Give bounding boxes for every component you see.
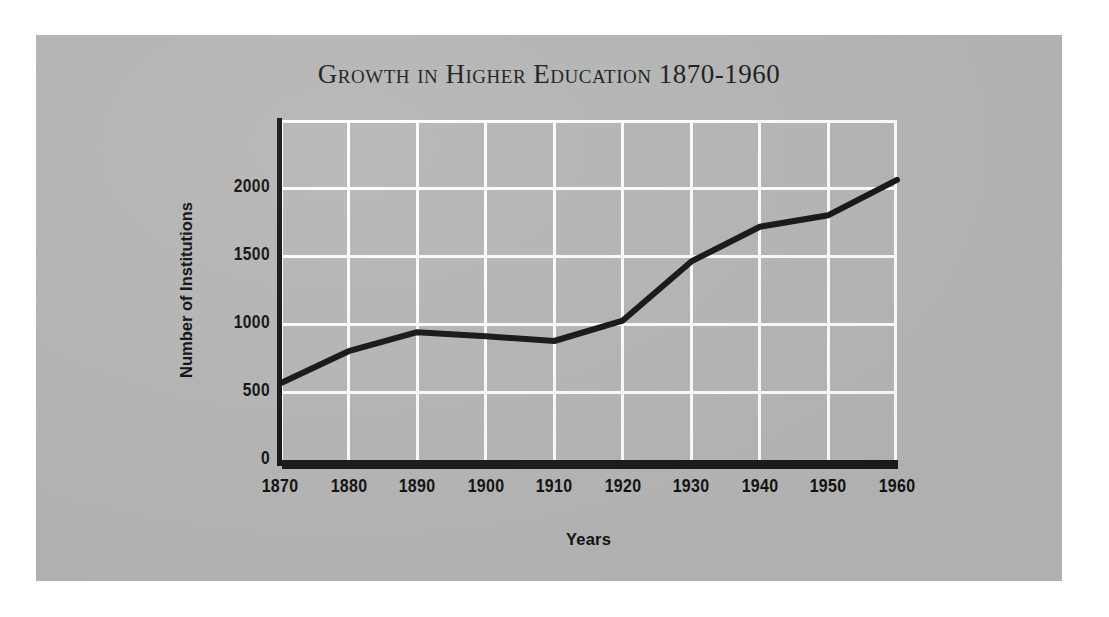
y-axis-title-text: Number of Institutions bbox=[177, 202, 196, 378]
chart-title: Growth in Higher Education 1870-1960 bbox=[36, 59, 1062, 90]
y-tick-label: 1000 bbox=[213, 311, 270, 333]
x-tick-label: 1900 bbox=[452, 475, 519, 497]
x-tick-label: 1940 bbox=[726, 475, 793, 497]
y-axis-line bbox=[277, 118, 282, 466]
chart-panel: Growth in Higher Education 1870-1960 050… bbox=[36, 35, 1062, 581]
y-tick-label: 0 bbox=[213, 447, 270, 469]
x-axis-title: Years bbox=[280, 530, 897, 549]
y-axis-tick-labels: 0500100015002000 bbox=[196, 120, 270, 460]
line-series bbox=[280, 120, 897, 460]
x-tick-label: 1870 bbox=[246, 475, 313, 497]
x-tick-label: 1890 bbox=[384, 475, 451, 497]
figure-canvas: Growth in Higher Education 1870-1960 050… bbox=[0, 0, 1109, 617]
x-tick-label: 1930 bbox=[658, 475, 725, 497]
x-tick-label: 1950 bbox=[795, 475, 862, 497]
x-axis-line bbox=[282, 460, 898, 469]
y-tick-label: 500 bbox=[213, 379, 270, 401]
y-axis-title: Number of Institutions bbox=[174, 120, 198, 460]
series-polyline bbox=[280, 180, 897, 384]
y-tick-label: 2000 bbox=[213, 175, 270, 197]
x-axis-tick-labels: 1870188018901900191019201930194019501960 bbox=[280, 475, 897, 505]
x-tick-label: 1920 bbox=[589, 475, 656, 497]
x-tick-label: 1910 bbox=[521, 475, 588, 497]
x-tick-label: 1880 bbox=[315, 475, 382, 497]
y-tick-label: 1500 bbox=[213, 243, 270, 265]
x-tick-label: 1960 bbox=[863, 475, 930, 497]
